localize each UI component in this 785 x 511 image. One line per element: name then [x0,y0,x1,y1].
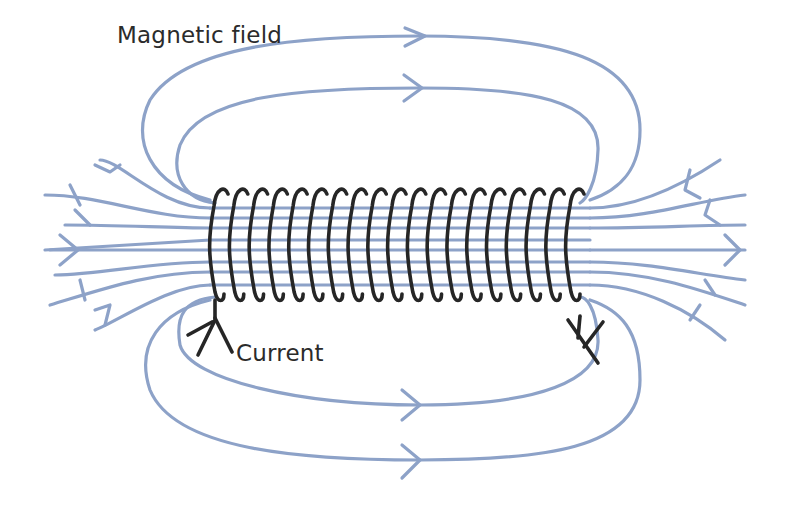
internal-field-lines [45,160,745,340]
current-label: Current [236,340,324,366]
field-loop-arrows [402,28,425,478]
solenoid-diagram [0,0,785,511]
magnetic-field-label: Magnetic field [117,22,282,48]
